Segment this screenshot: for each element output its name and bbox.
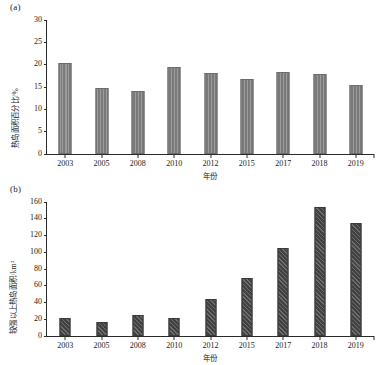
panel-b-y-tick-mark [44,336,47,337]
panel-a-x-tick-mark [283,154,284,158]
panel-b-x-tick-mark [283,336,284,340]
panel-a-x-tick-label: 2003 [57,159,73,169]
panel-a-y-tick-mark [44,20,47,21]
panel-a-bar [313,74,326,154]
panel-b-y-tick-label: 20 [34,314,42,324]
panel-a-x-tick-mark [137,154,138,158]
panel-a-y-tick-label: 20 [34,59,42,69]
panel-a-bar [95,88,108,154]
panel-a-bar [277,72,290,154]
panel-b-y-tick-label: 140 [30,213,42,223]
panel-a-x-tick-label: 2012 [203,159,219,169]
panel-a-bar [240,79,253,154]
panel-b-y-tick-label: 0 [38,331,42,341]
panel-a-y-tick-label: 10 [34,104,42,114]
panel-b-letter: (b) [10,184,21,194]
panel-a-bar [349,85,362,154]
panel-b-x-tick-mark [355,336,356,340]
panel-a-x-tick-label: 2015 [239,159,255,169]
panel-b-x-tick-label: 2018 [312,341,328,351]
panel-b-y-tick-mark [44,235,47,236]
panel-b-y-tick-label: 40 [34,297,42,307]
panel-b-y-tick-mark [44,285,47,286]
panel-b-bar [60,318,71,336]
panel-b-x-tick-label: 2017 [275,341,291,351]
panel-b-bar [241,278,252,336]
figure-container: (a) 热岛面积百分比/% 年份 05101520253020032005200… [0,0,388,365]
panel-a-y-tick-label: 25 [34,37,42,47]
panel-a-x-tick-label: 2017 [275,159,291,169]
panel-b-x-tick-mark [210,336,211,340]
panel-b-x-axis-end-tick [374,336,375,340]
panel-b-y-tick-mark [44,252,47,253]
panel-a-x-tick-mark [355,154,356,158]
panel-a-x-tick-label: 2018 [312,159,328,169]
panel-b-x-tick-mark [137,336,138,340]
panel-b-plot-area: 0204060801001201401602003200520082010201… [46,202,374,337]
panel-b-bar [169,318,180,336]
panel-b-y-tick-label: 100 [30,247,42,257]
panel-b-y-axis-title: 较强以上热岛面积/km² [7,260,18,334]
panel-b-x-tick-label: 2015 [239,341,255,351]
panel-b-y-tick-mark [44,218,47,219]
panel-a-x-tick-mark [210,154,211,158]
chart-panel-b: (b) 较强以上热岛面积/km² 年份 02040608010012014016… [0,182,388,365]
panel-b-bar [205,299,216,336]
panel-a-y-tick-mark [44,87,47,88]
panel-a-bar [168,67,181,154]
panel-b-bar [132,315,143,336]
panel-b-y-tick-mark [44,319,47,320]
panel-a-x-axis-title: 年份 [46,170,374,181]
panel-b-x-tick-label: 2019 [348,341,364,351]
panel-a-plot-area: 0510152025302003200520082010201220152017… [46,20,374,155]
panel-a-y-tick-label: 15 [34,82,42,92]
panel-b-x-tick-mark [101,336,102,340]
panel-a-bar [59,63,72,154]
panel-b-y-tick-mark [44,269,47,270]
panel-a-y-tick-mark [44,42,47,43]
panel-b-x-tick-label: 2005 [94,341,110,351]
panel-b-x-tick-mark [319,336,320,340]
panel-a-y-tick-mark [44,131,47,132]
panel-a-y-tick-mark [44,109,47,110]
panel-b-x-tick-label: 2012 [203,341,219,351]
panel-b-bar [278,248,289,336]
panel-b-y-tick-label: 60 [34,280,42,290]
panel-a-x-tick-label: 2005 [94,159,110,169]
panel-a-bar [131,91,144,154]
panel-b-bar [96,322,107,336]
panel-a-y-tick-mark [44,64,47,65]
panel-a-x-tick-label: 2008 [130,159,146,169]
panel-a-x-axis-end-tick [374,154,375,158]
panel-b-x-tick-label: 2003 [57,341,73,351]
panel-b-x-tick-label: 2010 [166,341,182,351]
panel-b-y-tick-mark [44,202,47,203]
panel-a-x-tick-label: 2010 [166,159,182,169]
panel-a-letter: (a) [10,2,21,12]
panel-b-x-tick-mark [174,336,175,340]
panel-a-y-axis-title: 热岛面积百分比/% [9,88,20,148]
panel-a-x-tick-label: 2019 [348,159,364,169]
panel-a-y-tick-label: 0 [38,149,42,159]
panel-b-y-tick-label: 80 [34,264,42,274]
panel-b-bar [314,207,325,336]
panel-a-y-tick-label: 5 [38,126,42,136]
panel-a-y-tick-mark [44,154,47,155]
panel-a-bar [204,73,217,154]
chart-panel-a: (a) 热岛面积百分比/% 年份 05101520253020032005200… [0,0,388,183]
panel-a-y-tick-label: 30 [34,15,42,25]
panel-a-x-tick-mark [65,154,66,158]
panel-b-y-tick-mark [44,302,47,303]
panel-b-x-tick-label: 2008 [130,341,146,351]
panel-b-y-tick-label: 120 [30,230,42,240]
panel-b-bar [350,223,361,336]
panel-b-x-tick-mark [65,336,66,340]
panel-a-x-tick-mark [319,154,320,158]
panel-a-x-tick-mark [246,154,247,158]
panel-a-x-tick-mark [101,154,102,158]
panel-b-y-tick-label: 160 [30,197,42,207]
panel-b-x-axis-title: 年份 [46,352,374,363]
panel-b-x-tick-mark [246,336,247,340]
panel-a-x-tick-mark [174,154,175,158]
